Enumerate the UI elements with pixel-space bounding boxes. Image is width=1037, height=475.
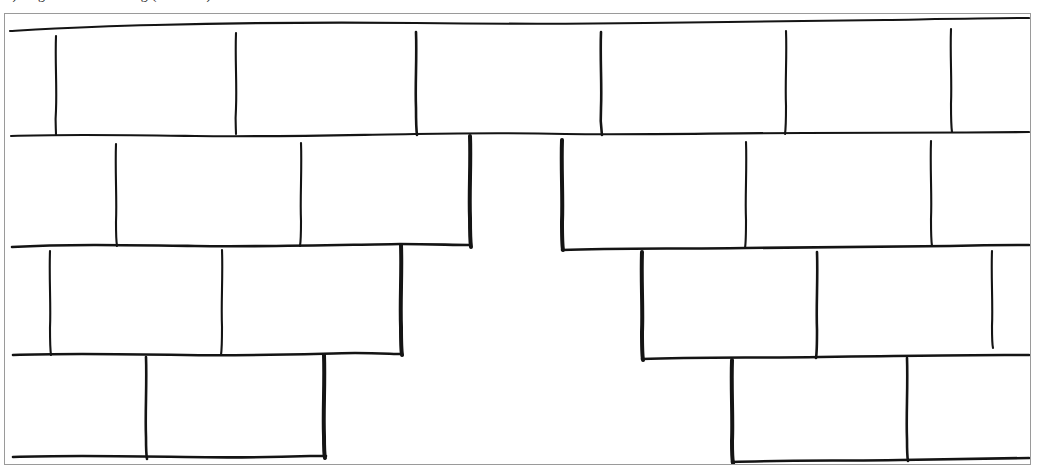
bed-joint-top [10,18,1029,31]
bed-joint-3-right [642,355,1029,359]
head-joint-c3-2 [221,250,222,355]
head-joint-c4-1 [146,357,147,459]
head-joint-c3-3 [816,252,817,358]
bed-joint-bottom-left [13,456,326,458]
brick-wall-drawing [5,14,1030,464]
head-joint-c1-6 [951,29,952,132]
head-joint-c1-5 [785,31,786,134]
head-joint-c2-3 [745,142,746,248]
head-joint-c2-2 [300,143,301,246]
void-edge-right-lower [642,252,643,360]
head-joint-c3-4 [992,251,993,348]
figure-frame [4,13,1031,465]
bed-joint-1 [11,132,1029,136]
bed-joint-3-left [13,353,402,355]
head-joint-c1-1 [56,36,57,135]
figure-caption-clipped: a) single course bonding (stretcher) [0,0,1037,13]
void-edge-left-upper [470,136,471,247]
head-joint-c1-3 [416,32,417,135]
void-edge-right-upper [562,140,563,250]
figure-caption-text: a) single course bonding (stretcher) [6,0,211,3]
void-edge-left-lower [401,245,402,355]
head-joint-c2-4 [931,141,932,246]
head-joint-c3-1 [50,251,51,355]
bed-joint-2-right [562,245,1029,250]
head-joint-c1-4 [601,32,602,135]
void-edge-bottom-right [732,360,733,463]
head-joint-c1-2 [236,33,237,134]
head-joint-c4-2 [907,358,908,461]
bed-joint-bottom-right [732,458,1029,462]
head-joint-c2-1 [116,144,117,246]
void-edge-bottom-left [324,355,325,458]
